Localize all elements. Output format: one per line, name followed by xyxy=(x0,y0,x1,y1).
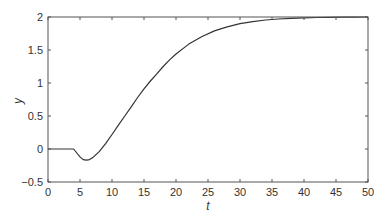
axes-frame xyxy=(48,17,368,182)
y-tick-label: 0.5 xyxy=(28,110,43,122)
x-tick-label: 15 xyxy=(138,186,150,198)
x-tick-label: 25 xyxy=(202,186,214,198)
y-tick-label: 1.5 xyxy=(28,44,43,56)
x-tick-label: 5 xyxy=(77,186,83,198)
plot-area xyxy=(48,17,368,160)
x-tick-label: 20 xyxy=(170,186,182,198)
series-line xyxy=(48,17,368,160)
x-tick-label: 50 xyxy=(362,186,374,198)
y-axis-label: y xyxy=(11,97,25,105)
y-tick-label: 0 xyxy=(37,143,43,155)
line-chart: 05101520253035404550−0.500.511.52 t y xyxy=(0,0,389,219)
x-tick-label: 35 xyxy=(266,186,278,198)
x-tick-label: 0 xyxy=(45,186,51,198)
x-tick-label: 10 xyxy=(106,186,118,198)
x-axis-label: t xyxy=(206,199,210,213)
x-tick-label: 45 xyxy=(330,186,342,198)
x-tick-label: 40 xyxy=(298,186,310,198)
y-tick-label: −0.5 xyxy=(21,176,43,188)
tick-marks xyxy=(48,17,368,182)
y-tick-label: 1 xyxy=(37,77,43,89)
x-tick-label: 30 xyxy=(234,186,246,198)
y-tick-label: 2 xyxy=(37,11,43,23)
axes xyxy=(48,17,368,182)
